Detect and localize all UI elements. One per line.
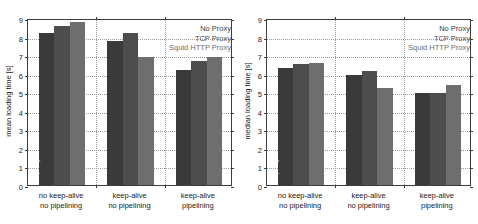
x-group-label-1: no keep-aliveno pipelining	[39, 191, 84, 210]
x-group-label-line: pipelining	[181, 201, 215, 211]
y-tick-mark	[264, 168, 267, 169]
legend-item-no-proxy: No Proxy	[408, 24, 470, 34]
gridline-vertical	[96, 20, 97, 185]
bar-right-group3-tcp-proxy	[430, 93, 446, 185]
chart-panel-median: median loading time [s]0123456789no prox…	[239, 0, 478, 224]
bar-right-group2-squid-http-proxy	[377, 88, 393, 185]
legend-item-no-proxy: No Proxy	[169, 24, 231, 34]
bar-left-group3-no-proxy	[176, 70, 192, 185]
y-tick-mark	[25, 20, 28, 21]
y-tick-mark	[264, 131, 267, 132]
y-tick-mark	[25, 113, 28, 114]
y-tick-mark	[25, 57, 28, 58]
y-tick-mark	[264, 94, 267, 95]
legend: No ProxyTCP ProxySquid HTTP Proxy	[169, 24, 231, 53]
gridline-vertical	[404, 20, 405, 185]
y-tick-mark	[25, 94, 28, 95]
y-tick-label: 5	[19, 90, 23, 99]
y-tick-label: 2	[19, 145, 23, 154]
y-tick-label: 1	[19, 164, 23, 173]
y-tick-mark	[264, 57, 267, 58]
bar-left-group2-tcp-proxy	[123, 33, 139, 185]
bar-right-group1-tcp-proxy: TCP proxy	[293, 64, 309, 185]
bar-right-group3-squid-http-proxy	[446, 85, 462, 185]
x-tick-mark-top	[165, 17, 166, 20]
bar-left-group2-no-proxy	[107, 41, 123, 185]
y-tick-mark-right	[470, 187, 473, 188]
figure-two-bar-charts: mean loading time [s]0123456789no proxyT…	[0, 0, 478, 224]
y-tick-mark-right	[231, 168, 234, 169]
y-tick-label: 7	[19, 53, 23, 62]
y-tick-mark	[264, 39, 267, 40]
gridline-vertical	[165, 20, 166, 185]
x-tick-mark-bottom	[165, 185, 166, 188]
y-tick-mark-right	[231, 20, 234, 21]
x-tick-mark-top	[335, 17, 336, 20]
y-tick-mark-right	[231, 94, 234, 95]
y-tick-mark	[25, 150, 28, 151]
x-group-label-line: no pipelining	[108, 201, 150, 211]
legend-item-squid-http-proxy: Squid HTTP Proxy	[169, 43, 231, 53]
y-tick-label: 6	[258, 71, 262, 80]
y-tick-label: 3	[19, 127, 23, 136]
gridline-horizontal	[267, 57, 470, 58]
x-tick-mark-bottom	[335, 185, 336, 188]
x-group-label-line: no keep-alive	[278, 191, 323, 201]
y-tick-mark-right	[231, 76, 234, 77]
bar-left-group3-tcp-proxy	[191, 61, 207, 185]
y-tick-label: 1	[258, 164, 262, 173]
bar-right-group2-no-proxy	[346, 75, 362, 185]
y-tick-mark-right	[231, 150, 234, 151]
legend-item-tcp-proxy: TCP Proxy	[408, 34, 470, 44]
bar-right-group3-no-proxy	[415, 93, 431, 185]
x-group-label-3: keep-alivepipelining	[420, 191, 454, 210]
y-tick-mark	[264, 150, 267, 151]
gridline-vertical	[335, 20, 336, 185]
y-tick-mark-right	[470, 113, 473, 114]
x-group-label-1: no keep-aliveno pipelining	[278, 191, 323, 210]
y-tick-label: 7	[258, 53, 262, 62]
legend: No ProxyTCP ProxySquid HTTP Proxy	[408, 24, 470, 53]
bar-left-group1-no-proxy: no proxy	[39, 33, 55, 185]
y-tick-label: 5	[258, 90, 262, 99]
y-axis-label: median loading time [s]	[241, 16, 255, 186]
legend-item-squid-http-proxy: Squid HTTP Proxy	[408, 43, 470, 53]
y-tick-label: 4	[19, 108, 23, 117]
y-tick-label: 0	[19, 183, 23, 192]
bar-right-group2-tcp-proxy	[362, 71, 378, 185]
y-tick-label: 8	[258, 34, 262, 43]
y-tick-label: 6	[19, 71, 23, 80]
bar-left-group3-squid-http-proxy	[207, 57, 223, 185]
x-group-label-2: keep-aliveno pipelining	[347, 191, 389, 210]
y-tick-mark-right	[231, 187, 234, 188]
y-tick-mark-right	[231, 131, 234, 132]
y-tick-mark	[264, 113, 267, 114]
x-group-label-line: keep-alive	[420, 191, 454, 201]
y-tick-mark	[264, 187, 267, 188]
x-group-label-2: keep-aliveno pipelining	[108, 191, 150, 210]
x-group-label-line: no pipelining	[39, 201, 84, 211]
y-tick-mark	[25, 39, 28, 40]
bar-right-group1-no-proxy: no proxy	[278, 68, 294, 185]
y-tick-label: 0	[258, 183, 262, 192]
y-tick-mark-right	[470, 150, 473, 151]
y-tick-label: 4	[258, 108, 262, 117]
x-tick-mark-top	[96, 17, 97, 20]
x-group-label-line: pipelining	[420, 201, 454, 211]
x-tick-mark-top	[404, 17, 405, 20]
y-tick-label: 9	[258, 16, 262, 25]
y-tick-mark-right	[470, 39, 473, 40]
legend-item-tcp-proxy: TCP Proxy	[169, 34, 231, 44]
y-tick-mark	[25, 131, 28, 132]
x-tick-mark-bottom	[96, 185, 97, 188]
y-tick-mark	[264, 20, 267, 21]
y-tick-mark	[25, 168, 28, 169]
y-tick-label: 3	[258, 127, 262, 136]
y-tick-mark-right	[231, 57, 234, 58]
x-group-label-line: keep-alive	[108, 191, 150, 201]
x-group-label-line: no pipelining	[278, 201, 323, 211]
y-tick-mark	[25, 76, 28, 77]
y-tick-mark	[264, 76, 267, 77]
x-tick-mark-bottom	[404, 185, 405, 188]
x-group-label-3: keep-alivepipelining	[181, 191, 215, 210]
